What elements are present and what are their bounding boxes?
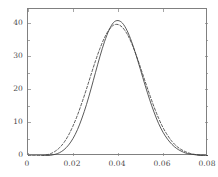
series-line-solid <box>28 21 208 156</box>
y-tick-label: 20 <box>0 85 23 93</box>
y-tick-label: 30 <box>0 52 23 60</box>
plot-area <box>27 8 207 155</box>
x-tick-label: 0.04 <box>108 160 125 168</box>
y-tick-label: 40 <box>0 19 23 27</box>
series-line-dashed <box>28 24 208 156</box>
x-tick-label: 0.02 <box>63 160 80 168</box>
y-tick-label: 10 <box>0 118 23 126</box>
data-series <box>28 21 208 156</box>
x-tick-label: 0.08 <box>198 160 215 168</box>
plot-canvas <box>28 9 208 156</box>
x-tick-label: 0.06 <box>153 160 170 168</box>
axis-ticks <box>28 9 208 156</box>
x-tick-label: 0 <box>25 160 30 168</box>
y-tick-label: 0 <box>0 151 23 159</box>
figure-container: 00.020.040.060.08 010203040 <box>0 0 218 177</box>
